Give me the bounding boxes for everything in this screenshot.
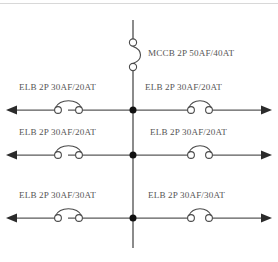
bus-junction-dot-3 — [130, 215, 137, 222]
feeder-1-left-arrow-icon — [6, 106, 17, 115]
feeder-2-left-elb-symbol[interactable] — [55, 146, 83, 159]
feeder-3-left-elb-symbol[interactable] — [55, 209, 83, 222]
feeder-1-right-label: ELB 2P 30AF/20AT — [145, 83, 222, 92]
feeder-1-right-arrow-icon — [261, 106, 272, 115]
mccb-symbol[interactable] — [129, 39, 140, 71]
single-line-diagram: MCCB 2P 50AF/40AT ELB 2P 30AF/20AT ELB 2… — [0, 0, 278, 262]
feeder-3-right-elb-symbol[interactable] — [188, 209, 213, 222]
feeder-2-right-elb-symbol[interactable] — [188, 146, 213, 159]
mccb-lower-terminal-icon — [129, 63, 136, 70]
mccb-break-arc-icon — [133, 47, 141, 64]
feeder-2-right-label: ELB 2P 30AF/20AT — [150, 128, 227, 137]
mccb-label: MCCB 2P 50AF/40AT — [148, 49, 234, 58]
feeder-3-right-arrow-icon — [261, 214, 272, 223]
feeder-row-3 — [6, 209, 272, 223]
feeder-2-right-arrow-icon — [261, 151, 272, 160]
bus-junction-dot-1 — [130, 107, 137, 114]
feeder-row-2 — [6, 146, 272, 160]
feeder-1-left-label: ELB 2P 30AF/20AT — [19, 83, 96, 92]
feeder-2-left-label: ELB 2P 30AF/20AT — [19, 128, 96, 137]
feeder-row-1 — [6, 101, 272, 115]
feeder-3-left-arrow-icon — [6, 214, 17, 223]
feeder-1-right-elb-symbol[interactable] — [188, 101, 213, 114]
feeder-3-right-label: ELB 2P 30AF/30AT — [148, 191, 225, 200]
feeder-3-left-label: ELB 2P 30AF/30AT — [19, 191, 96, 200]
bus-junction-dot-2 — [130, 152, 137, 159]
mccb-upper-terminal-icon — [129, 39, 136, 46]
feeder-2-left-arrow-icon — [6, 151, 17, 160]
feeder-1-left-elb-symbol[interactable] — [55, 101, 83, 114]
